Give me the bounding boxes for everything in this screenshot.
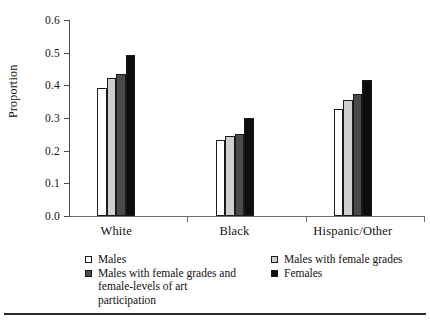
bar bbox=[362, 80, 372, 216]
bar bbox=[107, 78, 117, 217]
y-axis-tick-label: 0.3 bbox=[45, 112, 60, 124]
bars-layer bbox=[69, 20, 424, 216]
legend-item: Females bbox=[271, 267, 430, 280]
legend-label: Males with female grades bbox=[284, 253, 430, 266]
legend-item: Males with female grades and female-leve… bbox=[85, 267, 245, 307]
y-axis-tick-label: 0.0 bbox=[45, 210, 60, 222]
bar bbox=[244, 118, 254, 216]
legend-item: Males bbox=[85, 253, 245, 266]
y-axis-title: Proportion bbox=[6, 65, 21, 118]
x-axis-line bbox=[69, 216, 425, 217]
x-axis-tick bbox=[424, 216, 425, 222]
bar bbox=[216, 140, 226, 216]
y-axis-tick-label: 0.1 bbox=[45, 177, 60, 189]
legend-column-right: Males with female grades Females bbox=[271, 253, 430, 281]
legend-swatch-icon bbox=[85, 270, 92, 277]
x-axis-category-label: Black bbox=[219, 224, 249, 239]
y-axis-tick-label: 0.4 bbox=[45, 79, 60, 91]
x-axis-category-label: Hispanic/Other bbox=[313, 224, 392, 239]
legend-label: Females bbox=[284, 267, 430, 280]
y-axis-tick-label: 0.5 bbox=[45, 47, 60, 59]
legend-swatch-icon bbox=[85, 256, 92, 263]
bar bbox=[225, 136, 235, 216]
legend-label: Males bbox=[98, 253, 245, 266]
footer-rule bbox=[4, 313, 426, 315]
bar bbox=[126, 55, 136, 216]
legend-column-left: Males Males with female grades and femal… bbox=[85, 253, 245, 308]
bar bbox=[334, 109, 344, 216]
y-axis-tick bbox=[64, 216, 69, 217]
x-axis-category-label: White bbox=[100, 224, 132, 239]
y-axis-tick-label: 0.6 bbox=[45, 14, 60, 26]
legend-item: Males with female grades bbox=[271, 253, 430, 266]
legend-swatch-icon bbox=[271, 270, 278, 277]
x-axis-tick bbox=[306, 216, 307, 222]
y-axis-tick-label: 0.2 bbox=[45, 145, 60, 157]
bar bbox=[235, 134, 245, 216]
x-axis-tick bbox=[187, 216, 188, 222]
legend-swatch-icon bbox=[271, 256, 278, 263]
bar bbox=[116, 74, 126, 216]
bar bbox=[353, 94, 363, 216]
bar-chart-figure: Proportion 0.00.10.20.30.40.50.6 WhiteBl… bbox=[0, 0, 430, 324]
bar bbox=[97, 88, 107, 216]
legend-label: Males with female grades and female-leve… bbox=[98, 267, 245, 307]
bar bbox=[343, 100, 353, 216]
